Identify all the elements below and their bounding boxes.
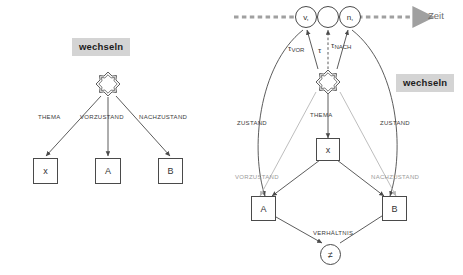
timeline-circle-mid — [317, 6, 339, 28]
edge-label-thema-right: THEMA — [310, 110, 333, 119]
node-circle-neq: ≠ — [320, 244, 341, 265]
edge-label-vorzustand-left: VORZUSTAND — [80, 112, 124, 121]
tau-mid-base: τ — [318, 46, 321, 55]
node-box-x-right: x — [316, 138, 340, 161]
edge-label-verhaeltnis: VERHÄLTNIS — [313, 228, 353, 237]
timeline-circle-vor: v, — [295, 6, 317, 28]
tau-nach-sub: NACH — [334, 44, 351, 50]
badge-wechseln-right: wechseln — [396, 74, 454, 92]
star-node-icon-left — [96, 72, 120, 96]
node-box-B-left: B — [158, 158, 183, 184]
edge-label-tau-vor: τVOR — [288, 44, 304, 53]
badge-wechseln-left: wechseln — [72, 38, 130, 56]
tau-vor-sub: VOR — [291, 47, 304, 53]
edge-label-thema-left: THEMA — [38, 112, 61, 121]
edge-label-tau-mid: τ — [318, 46, 321, 55]
timeline-axis-label: Zeit — [428, 10, 444, 21]
edge-label-zustand-right: ZUSTAND — [380, 118, 410, 127]
edge-label-tau-nach: τNACH — [331, 41, 351, 50]
edge-label-vorzustand-right: VORZUSTAND — [235, 172, 279, 181]
star-node-icon-right — [316, 70, 340, 94]
node-box-x-left: x — [33, 158, 58, 184]
star-nodes-layer — [0, 0, 463, 275]
node-box-A-left: A — [95, 158, 121, 184]
diagram-canvas: wechseln THEMA VORZUSTAND NACHZUSTAND x … — [0, 0, 463, 275]
edge-label-nachzustand-right: NACHZUSTAND — [371, 172, 419, 181]
node-box-A-right: A — [251, 196, 276, 221]
edge-label-nachzustand-left: NACHZUSTAND — [139, 112, 187, 121]
edge-label-zustand-left: ZUSTAND — [237, 118, 267, 127]
node-box-B-right: B — [382, 196, 407, 221]
timeline-circle-nach: n, — [339, 6, 361, 28]
